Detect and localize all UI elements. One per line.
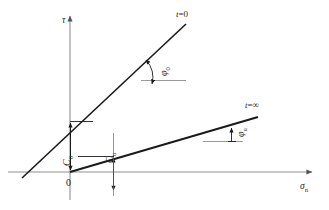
- y-axis-label: τ: [62, 16, 65, 26]
- Cu-label-subscript: u: [110, 153, 117, 156]
- phiu-label-subscript: u: [241, 128, 248, 131]
- x-axis-label: σn: [300, 182, 308, 193]
- curve-label-t0: t=0: [176, 10, 188, 19]
- curve-label-tinf: t=∞: [245, 101, 259, 110]
- failure-envelope-t0: [22, 24, 186, 178]
- failure-envelope-tinf: [70, 117, 258, 172]
- figure-canvas: [0, 0, 329, 210]
- curve-label-tinf-value: ∞: [253, 100, 259, 110]
- phiu-label: φu: [236, 128, 249, 137]
- C0-label: C0: [62, 156, 75, 166]
- phi0-label-symbol: φ: [158, 70, 169, 76]
- phiu-label-symbol: φ: [235, 131, 246, 137]
- C0-label-symbol: C: [61, 159, 72, 166]
- Cu-label-symbol: C: [104, 156, 115, 163]
- C0-label-subscript: 0: [67, 156, 74, 159]
- curve-label-t0-value: 0: [184, 9, 189, 19]
- mohr-coulomb-figure: τ σn 0 t=0 t=∞ C0 Cu φ0 φu: [0, 0, 329, 210]
- x-axis-label-subscript: n: [305, 186, 308, 193]
- phi0-label-subscript: 0: [164, 67, 171, 70]
- phi0-label: φ0: [159, 67, 172, 76]
- origin-label: 0: [66, 178, 71, 188]
- Cu-label: Cu: [105, 153, 118, 163]
